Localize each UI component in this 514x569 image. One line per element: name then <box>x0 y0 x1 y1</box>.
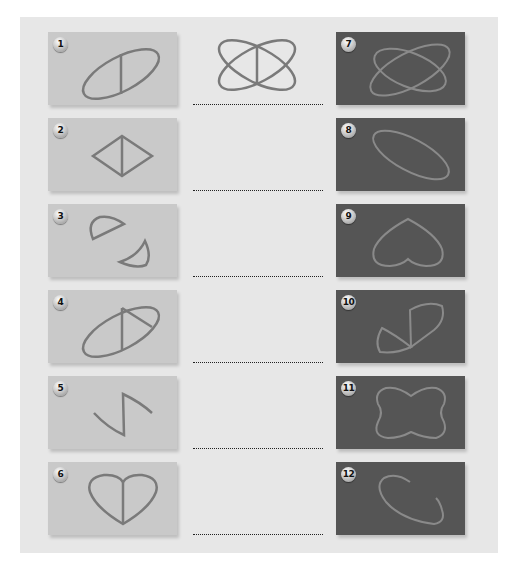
answer-line-6[interactable] <box>193 534 323 535</box>
card-12[interactable]: 12 <box>336 462 465 535</box>
card-10[interactable]: 10 <box>336 290 465 363</box>
heart-icon <box>48 462 177 535</box>
card-4[interactable]: 4 <box>48 290 177 363</box>
tilted-ellipse-icon <box>336 118 465 191</box>
card-5[interactable]: 5 <box>48 376 177 449</box>
answer-line-2[interactable] <box>193 190 323 191</box>
card-9[interactable]: 9 <box>336 204 465 277</box>
card-2[interactable]: 2 <box>48 118 177 191</box>
answer-line-1[interactable] <box>193 104 323 105</box>
answer-line-5[interactable] <box>193 448 323 449</box>
reference-figure <box>205 35 310 95</box>
answer-line-4[interactable] <box>193 362 323 363</box>
flower-icon <box>336 376 465 449</box>
crossed-ellipses-icon <box>336 32 465 105</box>
card-3[interactable]: 3 <box>48 204 177 277</box>
zigzag-segments-icon <box>336 290 465 363</box>
diamond-icon <box>48 118 177 191</box>
answer-line-3[interactable] <box>193 276 323 277</box>
tilted-ellipse-with-chord-icon <box>48 32 177 105</box>
card-11[interactable]: 11 <box>336 376 465 449</box>
card-6[interactable]: 6 <box>48 462 177 535</box>
card-7[interactable]: 7 <box>336 32 465 105</box>
card-1[interactable]: 1 <box>48 32 177 105</box>
ellipse-with-chords-icon <box>48 290 177 363</box>
inverted-heart-icon <box>336 204 465 277</box>
open-arc-icon <box>336 462 465 535</box>
zigzag-icon <box>48 376 177 449</box>
semicircles-icon <box>48 204 177 277</box>
card-8[interactable]: 8 <box>336 118 465 191</box>
